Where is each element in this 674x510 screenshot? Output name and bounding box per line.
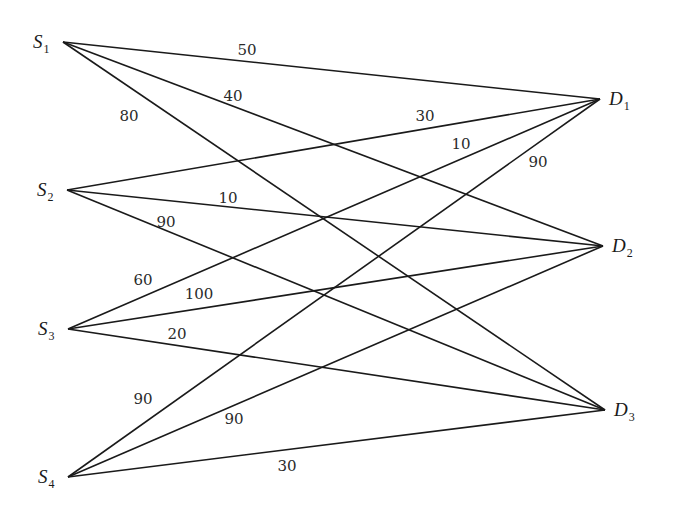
edge-weight-label: 10 <box>451 135 470 153</box>
node-subscript: 1 <box>44 42 50 56</box>
network-diagram: 50408030109010906010020909030 S1S2S3S4D1… <box>0 0 674 510</box>
edge-weight-label: 90 <box>528 153 547 171</box>
edge-weight-label: 90 <box>133 390 152 408</box>
node-letter: S <box>33 31 43 52</box>
edge-labels-group: 50408030109010906010020909030 <box>119 41 547 475</box>
source-node-s3: S3 <box>38 318 55 343</box>
destination-node-d2: D2 <box>611 235 633 260</box>
edge-weight-label: 60 <box>133 271 152 289</box>
edge-weight-label: 50 <box>237 41 256 59</box>
edge-s2-d2 <box>67 190 603 246</box>
node-subscript: 2 <box>627 246 633 260</box>
destination-node-d3: D3 <box>613 399 635 424</box>
node-letter: D <box>611 235 626 256</box>
node-letter: S <box>37 179 47 200</box>
edge-s2-d1 <box>67 99 600 190</box>
node-letter: D <box>608 88 623 109</box>
node-subscript: 4 <box>49 477 55 491</box>
edge-weight-label: 30 <box>415 107 434 125</box>
node-subscript: 3 <box>629 410 635 424</box>
destination-node-d1: D1 <box>608 88 630 113</box>
node-subscript: 2 <box>48 190 54 204</box>
node-subscript: 1 <box>624 99 630 113</box>
source-node-s4: S4 <box>38 466 55 491</box>
nodes-group: S1S2S3S4D1D2D3 <box>33 31 635 491</box>
edge-weight-label: 10 <box>218 189 237 207</box>
node-letter: S <box>38 318 48 339</box>
edge-s2-d3 <box>67 190 605 410</box>
edges-group <box>63 42 605 477</box>
edge-weight-label: 90 <box>224 410 243 428</box>
edge-weight-label: 100 <box>185 285 214 303</box>
edge-weight-label: 30 <box>277 457 296 475</box>
node-letter: D <box>613 399 628 420</box>
source-node-s1: S1 <box>33 31 50 56</box>
edge-weight-label: 20 <box>167 325 186 343</box>
edge-s1-d3 <box>63 42 605 410</box>
edge-weight-label: 90 <box>156 213 175 231</box>
edge-weight-label: 80 <box>119 107 138 125</box>
node-subscript: 3 <box>49 329 55 343</box>
edge-weight-label: 40 <box>223 87 242 105</box>
source-node-s2: S2 <box>37 179 54 204</box>
node-letter: S <box>38 466 48 487</box>
edge-s1-d1 <box>63 42 600 99</box>
